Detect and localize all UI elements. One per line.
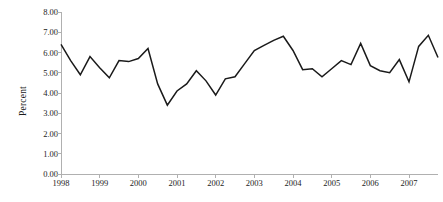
plot-area xyxy=(61,12,438,174)
y-tick-label: 3.00 xyxy=(43,108,58,118)
line-chart-figure: Percent 8.007.006.005.004.003.002.001.00… xyxy=(0,0,443,202)
x-tick-label: 1999 xyxy=(91,178,108,188)
x-tick-label: 2003 xyxy=(246,178,263,188)
y-tick-label: 2.00 xyxy=(43,129,58,139)
y-tick-label: 4.00 xyxy=(43,88,58,98)
x-tick-label: 2006 xyxy=(362,178,379,188)
x-tick-label: 1998 xyxy=(53,178,70,188)
y-tick-label: 8.00 xyxy=(43,7,58,17)
y-tick-label: 6.00 xyxy=(43,48,58,58)
x-tick-label: 2004 xyxy=(285,178,302,188)
y-tick-label: 5.00 xyxy=(43,68,58,78)
x-axis-tick-labels: 1998199920002001200220032004200520062007 xyxy=(0,178,443,194)
x-tick-label: 2007 xyxy=(401,178,418,188)
y-axis-title-label: Percent xyxy=(18,86,28,116)
x-tick-label: 2005 xyxy=(323,178,340,188)
x-tick-label: 2002 xyxy=(207,178,224,188)
axis-lines xyxy=(61,12,438,174)
y-axis-tick-labels: 8.007.006.005.004.003.002.001.000.00 xyxy=(28,9,58,175)
y-tick-label: 7.00 xyxy=(43,27,58,37)
x-tick-label: 2001 xyxy=(169,178,186,188)
plot-svg xyxy=(61,12,438,174)
series-line-percent xyxy=(61,35,438,105)
x-tick-label: 2000 xyxy=(130,178,147,188)
y-tick-label: 1.00 xyxy=(43,149,58,159)
